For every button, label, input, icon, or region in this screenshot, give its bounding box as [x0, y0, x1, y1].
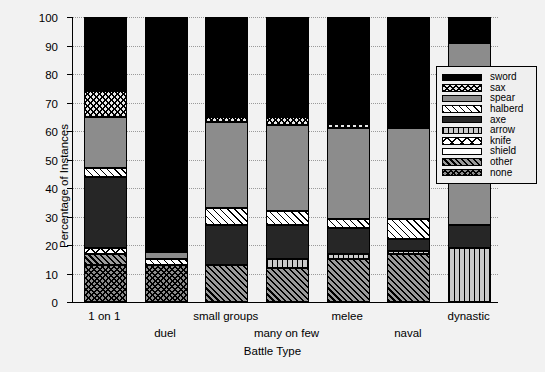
bar-segment-halberd[interactable]: [84, 168, 127, 177]
x-axis-label-small-groups: small groups: [193, 310, 258, 322]
chart-figure: Percentage of Instances 0102030405060708…: [0, 0, 545, 372]
bar-segment-spear[interactable]: [327, 128, 370, 219]
legend-swatch-halberd: [442, 105, 482, 113]
y-axis-tick-label: 60: [45, 126, 58, 138]
y-axis-tick: 90: [67, 46, 73, 47]
y-axis-tick-label: 90: [45, 41, 58, 53]
y-axis-tick-label: 30: [45, 212, 58, 224]
y-axis-tick-label: 10: [45, 269, 58, 281]
bar-segment-axe[interactable]: [327, 228, 370, 254]
bar-segment-other[interactable]: [327, 259, 370, 302]
bar-segment-sword[interactable]: [387, 17, 430, 128]
legend-label: shield: [490, 146, 516, 156]
legend-swatch-axe: [442, 116, 482, 124]
bar-segment-other[interactable]: [266, 268, 309, 302]
legend-item-shield[interactable]: shield: [442, 146, 530, 157]
legend-label: none: [490, 168, 512, 178]
bar-1-on-1[interactable]: [84, 17, 127, 302]
legend-item-none[interactable]: none: [442, 167, 530, 178]
bar-segment-sword[interactable]: [266, 17, 309, 117]
bar-segment-axe[interactable]: [448, 225, 491, 248]
legend-label: spear: [490, 93, 515, 103]
y-axis-tick-label: 70: [45, 98, 58, 110]
x-axis-title: Battle Type: [0, 345, 545, 357]
bar-segment-halberd[interactable]: [327, 219, 370, 228]
bar-segment-other[interactable]: [387, 254, 430, 302]
bar-segment-halberd[interactable]: [145, 259, 188, 265]
y-axis-tick-label: 50: [45, 155, 58, 167]
x-axis-label-many-on-few: many on few: [254, 327, 319, 339]
legend-label: axe: [490, 115, 506, 125]
bar-segment-halberd[interactable]: [266, 211, 309, 225]
bar-naval[interactable]: [387, 17, 430, 302]
legend-item-other[interactable]: other: [442, 157, 530, 168]
legend: swordsaxspearhalberdaxearrowknifeshieldo…: [436, 66, 537, 184]
y-axis-tick: 80: [67, 74, 73, 75]
legend-item-knife[interactable]: knife: [442, 136, 530, 147]
bar-segment-sword[interactable]: [84, 17, 127, 91]
bar-segment-sword[interactable]: [327, 17, 370, 124]
y-axis-tick-label: 80: [45, 69, 58, 81]
y-axis-tick: 60: [67, 131, 73, 132]
bar-segment-arrow[interactable]: [387, 251, 430, 254]
bar-segment-sword[interactable]: [448, 17, 491, 43]
bar-segment-arrow[interactable]: [327, 254, 370, 260]
bar-segment-sax[interactable]: [84, 91, 127, 117]
bar-segment-other[interactable]: [205, 265, 248, 302]
bar-segment-axe[interactable]: [387, 239, 430, 250]
bar-segment-spear[interactable]: [387, 128, 430, 219]
legend-label: other: [490, 157, 513, 167]
legend-swatch-spear: [442, 95, 482, 103]
legend-label: knife: [490, 136, 511, 146]
legend-swatch-sax: [442, 84, 482, 92]
bar-segment-sword[interactable]: [205, 17, 248, 117]
bar-segment-spear[interactable]: [266, 125, 309, 211]
y-axis-tick-label: 40: [45, 183, 58, 195]
y-axis-tick: 100: [67, 17, 73, 18]
bar-segment-axe[interactable]: [266, 225, 309, 259]
y-axis-tick: 50: [67, 160, 73, 161]
bar-segment-none[interactable]: [84, 265, 127, 302]
bar-segment-sax[interactable]: [327, 124, 370, 128]
legend-item-arrow[interactable]: arrow: [442, 125, 530, 136]
y-axis-title: Percentage of Instances: [58, 124, 70, 248]
bar-segment-other[interactable]: [84, 254, 127, 265]
bar-segment-sax[interactable]: [266, 117, 309, 126]
y-axis-tick-label: 20: [45, 240, 58, 252]
bar-segment-sax[interactable]: [205, 117, 248, 123]
x-axis-label-naval: naval: [394, 327, 422, 339]
legend-swatch-sword: [442, 74, 482, 82]
bar-segment-halberd[interactable]: [205, 208, 248, 225]
bar-segment-axe[interactable]: [84, 177, 127, 248]
bar-segment-arrow[interactable]: [448, 248, 491, 302]
legend-item-sword[interactable]: sword: [442, 72, 530, 83]
bar-segment-none[interactable]: [145, 265, 188, 302]
y-axis-tick: 10: [67, 274, 73, 275]
bar-segment-arrow[interactable]: [266, 259, 309, 268]
bar-segment-spear[interactable]: [84, 117, 127, 168]
y-axis-tick-label: 100: [39, 12, 58, 24]
x-axis-label-duel: duel: [154, 327, 176, 339]
legend-swatch-none: [442, 169, 482, 177]
legend-swatch-shield: [442, 148, 482, 156]
bar-segment-axe[interactable]: [205, 225, 248, 265]
x-axis-label-melee: melee: [332, 310, 363, 322]
bar-small-groups[interactable]: [205, 17, 248, 302]
bar-segment-sword[interactable]: [145, 17, 188, 252]
legend-item-sax[interactable]: sax: [442, 83, 530, 94]
legend-swatch-arrow: [442, 127, 482, 135]
x-axis-label-1-on-1: 1 on 1: [88, 310, 120, 322]
bar-segment-spear[interactable]: [205, 122, 248, 208]
legend-item-halberd[interactable]: halberd: [442, 104, 530, 115]
bar-segment-spear[interactable]: [145, 252, 188, 259]
bar-segment-halberd[interactable]: [387, 219, 430, 239]
legend-item-axe[interactable]: axe: [442, 114, 530, 125]
legend-label: sword: [490, 72, 517, 82]
bar-duel[interactable]: [145, 17, 188, 302]
y-axis-tick: 70: [67, 103, 73, 104]
bar-segment-knife[interactable]: [84, 248, 127, 254]
y-axis-tick: 30: [67, 217, 73, 218]
bar-melee[interactable]: [327, 17, 370, 302]
bar-many-on-few[interactable]: [266, 17, 309, 302]
legend-label: sax: [490, 83, 506, 93]
